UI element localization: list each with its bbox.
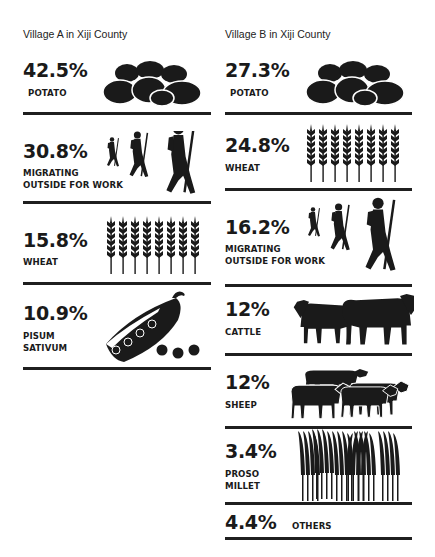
village-a-wheat-percent: 15.8%	[23, 229, 87, 251]
village-b-sheep-label: SHEEP	[225, 399, 257, 411]
village-b-millet-label-2: MILLET	[225, 480, 260, 492]
village-b-potato-percent: 27.3%	[225, 59, 289, 81]
potato-icon	[102, 60, 210, 108]
village-b-migrating-percent: 16.2%	[225, 216, 289, 238]
village-b-sheep-percent: 12%	[225, 371, 270, 393]
divider	[23, 367, 211, 370]
divider	[225, 353, 412, 356]
village-b-others-label: OTHERS	[292, 520, 332, 532]
divider	[225, 502, 412, 505]
village-b-cattle-percent: 12%	[225, 298, 270, 320]
village-a-potato-percent: 42.5%	[23, 59, 87, 81]
divider	[225, 188, 412, 191]
village-a-pisum-label-2: SATIVUM	[23, 342, 67, 354]
village-a-pisum-label-1: PISUM	[23, 330, 55, 342]
divider	[23, 201, 211, 204]
divider	[225, 537, 412, 540]
cattle-icon	[284, 292, 414, 350]
village-b-others-percent: 4.4%	[225, 511, 277, 533]
village-a-migrating-percent: 30.8%	[23, 140, 87, 162]
divider	[23, 282, 211, 285]
village-b-migrating-label-1: MIGRATING	[225, 243, 281, 255]
village-b-wheat-percent: 24.8%	[225, 134, 289, 156]
walking-people-icon	[106, 131, 216, 201]
village-b-potato-label: POTATO	[230, 87, 269, 99]
pea-pod-icon	[102, 290, 206, 362]
village-b-millet-label-1: PROSO	[225, 468, 259, 480]
wheat-icon	[306, 120, 402, 184]
divider	[23, 112, 211, 115]
potato-icon	[305, 60, 413, 108]
sheep-icon	[287, 369, 417, 421]
village-a-migrating-label-1: MIGRATING	[23, 167, 79, 179]
divider	[225, 112, 412, 115]
wheat-icon	[106, 212, 202, 276]
village-a-pisum-percent: 10.9%	[23, 302, 87, 324]
village-a-potato-label: POTATO	[28, 87, 67, 99]
village-b-title: Village B in Xiji County	[225, 28, 330, 40]
village-b-cattle-label: CATTLE	[225, 326, 261, 338]
village-b-wheat-label: WHEAT	[225, 162, 260, 174]
divider	[225, 284, 412, 287]
village-a-wheat-label: WHEAT	[23, 256, 58, 268]
village-b-millet-percent: 3.4%	[225, 440, 277, 462]
millet-icon	[298, 429, 410, 501]
village-a-title: Village A in Xiji County	[23, 28, 127, 40]
walking-people-icon	[307, 197, 411, 277]
